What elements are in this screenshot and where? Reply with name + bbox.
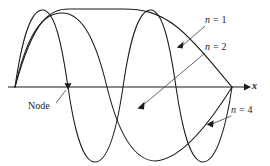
wave-diagram-canvas	[0, 0, 270, 166]
x-axis-arrow-icon	[244, 83, 251, 90]
node-label: Node	[28, 101, 50, 111]
n4-leader-line	[212, 116, 231, 124]
node-callout-group	[56, 90, 66, 103]
wave-curve-n1	[15, 9, 232, 87]
x-axis-group	[8, 83, 251, 90]
wave-curve-n4	[15, 10, 232, 162]
mode-label-n2: n = 2	[205, 42, 227, 52]
x-axis-label: x	[252, 81, 257, 91]
n2-callout-group	[137, 53, 205, 110]
standing-wave-figure: x Node n = 1 n = 2 n = 4	[0, 0, 270, 166]
node-marker	[64, 83, 71, 89]
mode-label-n4-value: = 4	[236, 104, 252, 115]
n1-callout-group	[177, 26, 205, 49]
n4-arrow-icon	[207, 120, 214, 127]
n2-leader-line	[142, 53, 205, 106]
n4-callout-group	[207, 116, 231, 127]
mode-label-n4: n = 4	[231, 105, 253, 115]
node-leader-line	[56, 90, 66, 103]
mode-label-n2-value: = 2	[210, 41, 226, 52]
mode-label-n1-value: = 1	[210, 14, 226, 25]
n1-arrow-icon	[177, 42, 184, 49]
n2-arrow-icon	[137, 102, 144, 110]
mode-label-n1: n = 1	[205, 15, 227, 25]
